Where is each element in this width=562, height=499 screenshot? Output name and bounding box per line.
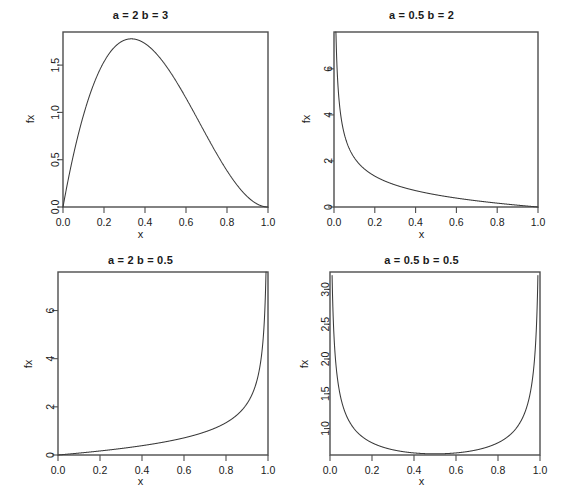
- y-tick-label: 1.0: [319, 421, 331, 436]
- x-tick-label: 0.4: [138, 216, 153, 228]
- x-tick-label: 0.2: [367, 216, 382, 228]
- y-tick-label: 6: [44, 307, 56, 313]
- x-tick-label: 0.8: [490, 216, 505, 228]
- panel-2-plot: 0.00.20.40.60.81.00246: [281, 0, 562, 250]
- y-tick-label: 2.0: [319, 352, 331, 367]
- x-tick-label: 1.0: [531, 216, 546, 228]
- plot-panel-1: a = 2 b = 3 0.00.20.40.60.81.00.00.51.01…: [0, 0, 281, 250]
- figure-canvas: a = 2 b = 3 0.00.20.40.60.81.00.00.51.01…: [0, 0, 562, 499]
- panel-1-xlabel: x: [0, 228, 281, 240]
- panel-2-xlabel: x: [281, 228, 562, 240]
- y-tick-label: 2: [44, 404, 56, 410]
- x-tick-label: 0.8: [220, 216, 235, 228]
- y-tick-label: 6: [322, 66, 334, 72]
- y-tick-label: 4: [44, 356, 56, 362]
- y-tick-label: 2: [322, 158, 334, 164]
- panel-1-ylabel: fx: [24, 109, 36, 129]
- x-tick-label: 0.6: [179, 216, 194, 228]
- plot-panel-3: a = 2 b = 0.5 0.00.20.40.60.81.00246 x f…: [0, 250, 281, 499]
- x-tick-label: 0.4: [408, 216, 423, 228]
- y-tick-label: 0.0: [49, 200, 61, 215]
- panel-3-ylabel: fx: [22, 354, 34, 374]
- x-tick-label: 0.2: [97, 216, 112, 228]
- x-tick-label: 0.0: [56, 216, 71, 228]
- y-tick-label: 0.5: [49, 152, 61, 167]
- density-curve: [63, 39, 268, 207]
- panel-4-ylabel: fx: [298, 354, 310, 374]
- x-tick-label: 0.6: [449, 216, 464, 228]
- plot-box: [58, 272, 268, 455]
- panel-3-xlabel: x: [0, 475, 281, 487]
- y-tick-label: 0: [322, 204, 334, 210]
- y-tick-label: 1.5: [319, 386, 331, 401]
- plot-panel-2: a = 0.5 b = 2 0.00.20.40.60.81.00246 x f…: [281, 0, 562, 250]
- plot-panel-4: a = 0.5 b = 0.5 0.00.20.40.60.81.01.01.5…: [281, 250, 562, 499]
- density-curve: [332, 276, 538, 454]
- plot-box: [334, 32, 538, 207]
- panel-4-xlabel: x: [281, 475, 562, 487]
- x-tick-label: 0.0: [327, 216, 342, 228]
- panel-1-plot: 0.00.20.40.60.81.00.00.51.01.5: [0, 0, 281, 250]
- y-tick-label: 0: [44, 452, 56, 458]
- panel-3-plot: 0.00.20.40.60.81.00246: [0, 250, 281, 499]
- y-tick-label: 1.5: [49, 58, 61, 73]
- y-tick-label: 4: [322, 112, 334, 118]
- y-tick-label: 3.0: [319, 282, 331, 297]
- y-tick-label: 2.5: [319, 317, 331, 332]
- y-tick-label: 1.0: [49, 105, 61, 120]
- x-tick-label: 1.0: [261, 216, 276, 228]
- density-curve: [336, 32, 538, 207]
- panel-2-ylabel: fx: [300, 109, 312, 129]
- panel-4-plot: 0.00.20.40.60.81.01.01.52.02.53.0: [281, 250, 562, 499]
- plot-box: [330, 272, 540, 455]
- density-curve: [58, 272, 266, 455]
- plot-box: [63, 32, 268, 207]
